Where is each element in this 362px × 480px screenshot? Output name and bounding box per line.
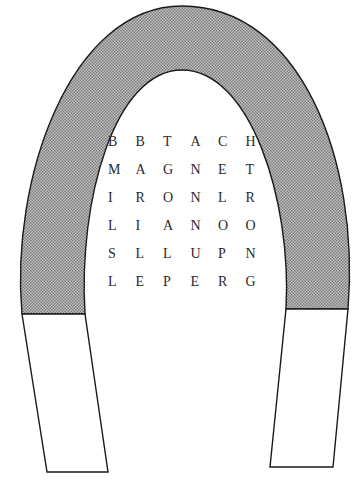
grid-cell: B (136, 128, 164, 156)
grid-cell: S (108, 240, 136, 268)
grid-cell: O (218, 212, 246, 240)
grid-cell: B (108, 128, 136, 156)
grid-cell: L (108, 268, 136, 296)
grid-cell: R (136, 184, 164, 212)
grid-cell: L (136, 240, 164, 268)
grid-cell: E (136, 268, 164, 296)
grid-cell: P (163, 268, 191, 296)
grid-cell: T (163, 128, 191, 156)
grid-cell: N (191, 156, 219, 184)
grid-cell: A (136, 156, 164, 184)
magnet-left-leg (22, 314, 108, 472)
grid-cell: H (246, 128, 274, 156)
grid-cell: N (191, 212, 219, 240)
grid-cell: L (108, 212, 136, 240)
grid-cell: M (108, 156, 136, 184)
grid-cell: I (108, 184, 136, 212)
grid-cell: N (191, 184, 219, 212)
grid-cell: L (218, 184, 246, 212)
grid-cell: G (163, 156, 191, 184)
grid-cell: A (191, 128, 219, 156)
magnet-right-leg (270, 309, 348, 467)
grid-cell: R (218, 268, 246, 296)
grid-cell: G (246, 268, 274, 296)
grid-cell: E (218, 156, 246, 184)
grid-cell: U (191, 240, 219, 268)
grid-cell: P (218, 240, 246, 268)
grid-cell: O (163, 184, 191, 212)
grid-cell: I (136, 212, 164, 240)
grid-cell: C (218, 128, 246, 156)
grid-cell: A (163, 212, 191, 240)
grid-cell: R (246, 184, 274, 212)
grid-cell: T (246, 156, 274, 184)
letter-grid: B B T A C H M A G N E T I R O N L R L I … (108, 128, 273, 296)
grid-cell: O (246, 212, 274, 240)
grid-cell: E (191, 268, 219, 296)
grid-cell: L (163, 240, 191, 268)
grid-cell: N (246, 240, 274, 268)
